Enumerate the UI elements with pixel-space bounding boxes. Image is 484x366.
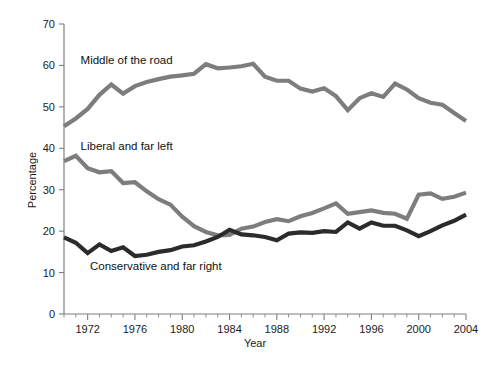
series-label-2: Conservative and far right <box>90 260 222 272</box>
series-line-0 <box>64 64 466 127</box>
x-axis-title: Year <box>244 337 267 349</box>
y-tick-label: 20 <box>43 225 55 237</box>
x-tick-label: 1988 <box>265 323 289 335</box>
x-axis-tick-label-group: 197219761980198419881992199620002004 <box>75 323 478 335</box>
y-tick-label: 0 <box>49 308 55 320</box>
chart-canvas: 010203040506070 197219761980198419881992… <box>0 0 484 366</box>
y-tick-label: 70 <box>43 18 55 30</box>
series-line-1 <box>64 156 466 236</box>
x-tick-label: 1984 <box>217 323 241 335</box>
y-tick-label: 50 <box>43 101 55 113</box>
x-tick-label: 1976 <box>123 323 147 335</box>
x-tick-label: 1980 <box>170 323 194 335</box>
x-tick-label: 2000 <box>406 323 430 335</box>
y-axis-title: Percentage <box>26 152 38 208</box>
y-tick-label: 30 <box>43 184 55 196</box>
y-tick-label: 40 <box>43 142 55 154</box>
series-path-group <box>64 64 466 256</box>
tick-mark-group <box>59 24 466 320</box>
series-annotation-group: Middle of the roadLiberal and far leftCo… <box>81 54 223 272</box>
x-tick-label: 1992 <box>312 323 336 335</box>
x-tick-label: 1972 <box>75 323 99 335</box>
y-tick-label: 10 <box>43 267 55 279</box>
x-tick-label: 2004 <box>454 323 478 335</box>
x-tick-label: 1996 <box>359 323 383 335</box>
y-tick-label: 60 <box>43 59 55 71</box>
line-chart-figure: 010203040506070 197219761980198419881992… <box>0 0 484 366</box>
series-label-1: Liberal and far left <box>81 140 174 152</box>
series-label-0: Middle of the road <box>81 54 173 66</box>
y-axis-tick-label-group: 010203040506070 <box>43 18 55 320</box>
